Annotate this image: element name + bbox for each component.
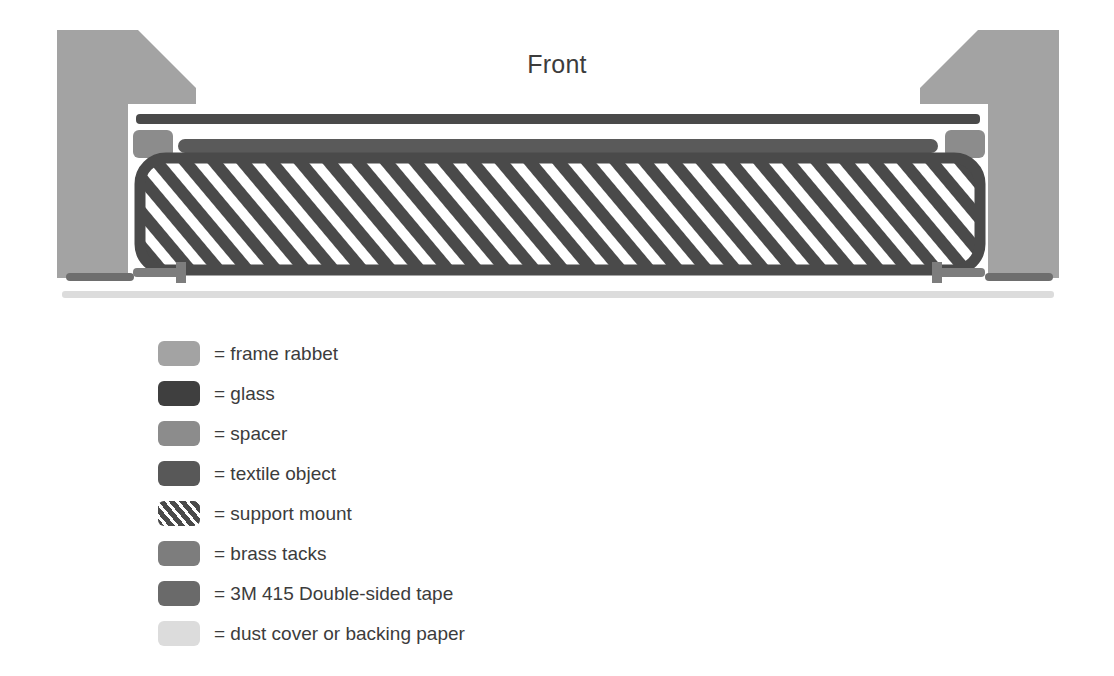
legend-label-spacer: = spacer (214, 424, 287, 443)
dust-cover (62, 291, 1054, 298)
legend-swatch-tape (158, 581, 200, 606)
textile-object (178, 139, 938, 153)
legend-item-tape: = 3M 415 Double-sided tape (158, 573, 858, 613)
legend-item-frame-rabbet: = frame rabbet (158, 333, 858, 373)
legend-label-dust-cover: = dust cover or backing paper (214, 624, 465, 643)
legend-item-spacer: = spacer (158, 413, 858, 453)
diagram-page: Front = frame rabbet = glass = spacer = … (0, 0, 1114, 676)
legend-label-textile-object: = textile object (214, 464, 336, 483)
legend-label-brass-tacks: = brass tacks (214, 544, 326, 563)
frame-cross-section-diagram: Front (0, 0, 1114, 320)
tape-right (985, 273, 1053, 281)
legend-item-dust-cover: = dust cover or backing paper (158, 613, 858, 653)
glass-sheet (136, 114, 980, 124)
legend-label-tape: = 3M 415 Double-sided tape (214, 584, 453, 603)
legend-swatch-brass-tacks (158, 541, 200, 566)
legend-item-brass-tacks: = brass tacks (158, 533, 858, 573)
legend-swatch-spacer (158, 421, 200, 446)
legend-swatch-glass (158, 381, 200, 406)
legend-item-support-mount: = support mount (158, 493, 858, 533)
tape-left (66, 273, 134, 281)
diagram-canvas (0, 0, 1114, 320)
legend-swatch-textile-object (158, 461, 200, 486)
legend-swatch-frame-rabbet (158, 341, 200, 366)
legend-label-glass: = glass (214, 384, 275, 403)
legend-label-frame-rabbet: = frame rabbet (214, 344, 338, 363)
legend-item-textile-object: = textile object (158, 453, 858, 493)
diagram-title: Front (0, 52, 1114, 77)
legend-swatch-dust-cover (158, 621, 200, 646)
support-mount (140, 158, 980, 270)
legend-swatch-support-mount (158, 501, 200, 526)
legend-label-support-mount: = support mount (214, 504, 352, 523)
legend: = frame rabbet = glass = spacer = textil… (158, 333, 858, 653)
legend-item-glass: = glass (158, 373, 858, 413)
